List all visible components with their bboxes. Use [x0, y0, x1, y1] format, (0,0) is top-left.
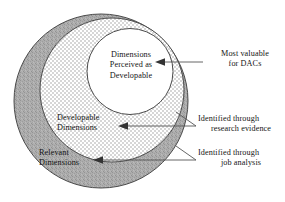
middle-label-line1: Developable [57, 113, 99, 122]
annotation-top-line1: Most valuable [221, 49, 269, 58]
middle-region-label: Developable Dimensions [57, 113, 121, 134]
annotation-bot-line2: job analysis [198, 158, 284, 168]
outer-label-line1: Relevant [39, 148, 69, 157]
inner-region-label: Dimensions Perceived as Developable [96, 50, 166, 81]
annotation-most-valuable: Most valuable for DACs [207, 49, 283, 70]
diagram-figure: Dimensions Perceived as Developable Deve… [0, 0, 285, 202]
middle-label-line2: Dimensions [57, 123, 97, 132]
annotation-mid-line2: research evidence [198, 124, 284, 134]
annotation-bot-line1: Identified through [198, 148, 259, 157]
inner-label-line1: Dimensions [111, 50, 151, 59]
inner-label-line2: Perceived as [110, 60, 152, 69]
annotation-top-line2: for DACs [207, 59, 283, 69]
outer-region-label: Relevant Dimensions [39, 148, 103, 169]
inner-label-line3: Developable [110, 71, 152, 80]
annotation-job-analysis: Identified through job analysis [198, 148, 284, 169]
annotation-mid-line1: Identified through [198, 114, 259, 123]
outer-label-line2: Dimensions [39, 158, 79, 167]
nested-circles-diagram [0, 0, 285, 202]
annotation-research-evidence: Identified through research evidence [198, 114, 284, 135]
